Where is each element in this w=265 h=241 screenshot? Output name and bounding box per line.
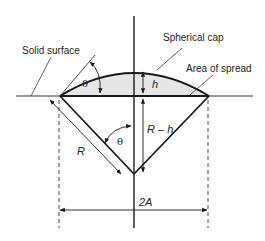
solid-surface-label: Solid surface [22,45,80,56]
solid-surface-leader [31,57,51,96]
r-arrow [50,100,121,174]
spherical-cap-label: Spherical cap [163,32,224,43]
spherical-cap-diagram: Solid surface Spherical cap Area of spre… [0,0,265,241]
r-minus-h-label: R – h [147,123,173,135]
theta-bottom-label: θ [117,136,123,147]
left-radius-line [60,96,134,174]
r-label: R [77,145,85,157]
two-a-label: 2A [138,196,152,208]
spherical-cap-leader [157,48,182,70]
h-label: h [152,78,158,90]
area-of-spread-label: Area of spread [186,63,252,74]
right-radius-line [134,96,209,174]
theta-top-label: θ [82,78,88,89]
